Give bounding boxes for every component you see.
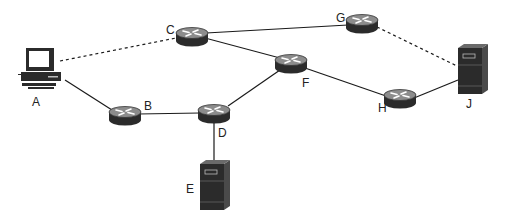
node-label-e: E	[186, 182, 194, 196]
link-h-j	[414, 80, 458, 98]
link-a-c	[60, 38, 176, 61]
router-icon[interactable]	[109, 107, 141, 126]
link-a-b	[65, 80, 112, 110]
computer-icon[interactable]	[18, 48, 61, 89]
network-diagram: A B C D F G H E J	[0, 0, 505, 215]
server-icon[interactable]	[200, 160, 230, 210]
node-label-d: D	[218, 126, 227, 140]
link-f-h	[305, 68, 386, 96]
router-icon[interactable]	[275, 55, 307, 74]
router-icon[interactable]	[198, 105, 230, 124]
node-label-f: F	[302, 76, 309, 90]
node-label-g: G	[336, 11, 345, 25]
server-icon[interactable]	[458, 44, 488, 94]
link-c-f	[205, 38, 280, 58]
link-b-d	[138, 113, 200, 114]
node-label-c: C	[166, 23, 175, 37]
link-c-g	[206, 25, 348, 33]
node-label-b: B	[144, 99, 152, 113]
node-label-j: J	[466, 97, 472, 111]
link-d-f	[228, 70, 280, 106]
router-icon[interactable]	[346, 15, 378, 34]
router-icon[interactable]	[176, 28, 208, 47]
link-g-j	[377, 27, 457, 66]
router-icon[interactable]	[384, 90, 416, 109]
node-label-h: H	[378, 101, 387, 115]
node-label-a: A	[32, 95, 40, 109]
